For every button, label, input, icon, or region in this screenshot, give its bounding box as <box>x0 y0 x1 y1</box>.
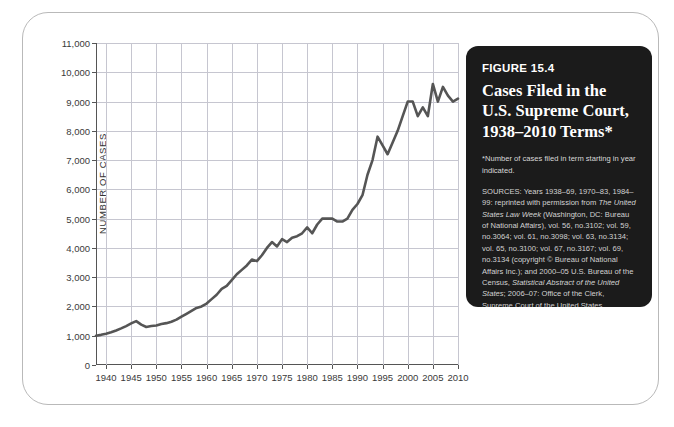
x-tick-mark <box>106 365 107 369</box>
x-tick-label: 2010 <box>447 372 468 383</box>
y-tick-label: 2,000 <box>66 301 90 312</box>
sources-middle: (Washington, DC: Bureau of National Affa… <box>482 210 633 287</box>
x-tick-mark <box>257 365 258 369</box>
x-tick-label: 1970 <box>246 372 267 383</box>
figure-container: NUMBER OF CASES 01,0002,0003,0004,0005,0… <box>0 0 674 427</box>
x-tick-label: 1985 <box>322 372 343 383</box>
chart-area: NUMBER OF CASES 01,0002,0003,0004,0005,0… <box>36 28 466 388</box>
x-tick-label: 1945 <box>121 372 142 383</box>
y-tick-label: 8,000 <box>66 125 90 136</box>
x-tick-mark <box>332 365 333 369</box>
x-tick-mark <box>131 365 132 369</box>
x-tick-mark <box>433 365 434 369</box>
x-tick-mark <box>383 365 384 369</box>
cases-filed-line-series <box>96 43 458 365</box>
x-tick-mark <box>357 365 358 369</box>
y-tick-label: 10,000 <box>61 67 90 78</box>
x-tick-label: 1955 <box>171 372 192 383</box>
y-tick-label: 6,000 <box>66 184 90 195</box>
y-tick-label: 1,000 <box>66 330 90 341</box>
gridline-vertical <box>458 43 459 365</box>
x-tick-mark <box>408 365 409 369</box>
y-tick-label: 5,000 <box>66 213 90 224</box>
y-tick-mark <box>92 365 96 366</box>
plot-region: 01,0002,0003,0004,0005,0006,0007,0008,00… <box>96 43 458 365</box>
x-tick-mark <box>232 365 233 369</box>
figure-sources: SOURCES: Years 1938–69, 1970–83, 1984–99… <box>482 186 636 307</box>
x-tick-mark <box>156 365 157 369</box>
x-tick-label: 2005 <box>422 372 443 383</box>
figure-note: *Number of cases filed in term starting … <box>482 153 636 175</box>
figure-title: Cases Filed in the U.S. Supreme Court, 1… <box>482 81 636 142</box>
x-tick-label: 2000 <box>397 372 418 383</box>
x-tick-mark <box>207 365 208 369</box>
y-tick-label: 9,000 <box>66 96 90 107</box>
y-tick-label: 11,000 <box>62 38 90 49</box>
x-tick-mark <box>282 365 283 369</box>
y-tick-label: 7,000 <box>66 155 90 166</box>
x-tick-label: 1940 <box>95 372 116 383</box>
x-tick-label: 1950 <box>146 372 167 383</box>
x-tick-mark <box>181 365 182 369</box>
y-tick-label: 0 <box>85 360 90 371</box>
x-tick-label: 1995 <box>372 372 393 383</box>
x-tick-mark <box>307 365 308 369</box>
x-tick-label: 1965 <box>221 372 242 383</box>
x-tick-mark <box>458 365 459 369</box>
x-tick-label: 1975 <box>271 372 292 383</box>
x-tick-label: 1980 <box>297 372 318 383</box>
figure-caption-panel: FIGURE 15.4 Cases Filed in the U.S. Supr… <box>466 46 652 307</box>
y-tick-label: 3,000 <box>66 272 90 283</box>
x-tick-label: 1990 <box>347 372 368 383</box>
figure-number-label: FIGURE 15.4 <box>482 62 636 74</box>
x-tick-label: 1960 <box>196 372 217 383</box>
y-tick-label: 4,000 <box>66 242 90 253</box>
